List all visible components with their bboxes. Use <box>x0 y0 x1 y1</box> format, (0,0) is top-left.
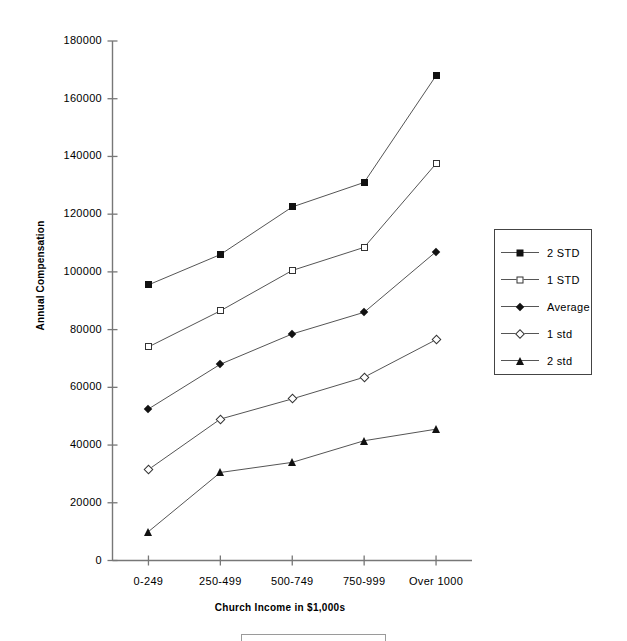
legend-item[interactable]: 1 std <box>495 320 591 347</box>
data-point-marker <box>288 458 296 466</box>
legend-marker-icon <box>517 249 524 256</box>
data-point-marker <box>433 160 440 167</box>
legend-marker-icon <box>515 329 525 339</box>
x-axis-tick-label: Over 1000 <box>381 575 491 587</box>
legend-item[interactable]: Average <box>495 293 591 320</box>
series-line <box>148 429 436 531</box>
series-line <box>148 340 436 470</box>
legend-marker-icon <box>516 302 524 310</box>
data-point-marker <box>361 244 368 251</box>
data-point-marker <box>216 468 224 476</box>
legend-marker-icon <box>517 276 524 283</box>
axis-lines <box>113 41 473 561</box>
data-point-marker <box>144 528 152 536</box>
bottom-divider-mark <box>241 634 386 641</box>
data-point-marker <box>432 425 440 433</box>
data-point-marker <box>289 203 296 210</box>
series-line <box>148 164 436 347</box>
legend-swatch <box>501 328 539 340</box>
data-point-marker <box>217 251 224 258</box>
legend-item[interactable]: 2 std <box>495 347 591 374</box>
data-point-marker <box>433 72 440 79</box>
series-line <box>148 76 436 285</box>
legend-marker-icon <box>516 357 524 365</box>
data-point-marker <box>361 179 368 186</box>
data-point-marker <box>289 267 296 274</box>
chart-legend: 2 STD1 STDAverage1 std2 std <box>494 229 592 375</box>
legend-swatch <box>501 355 539 367</box>
x-axis-title: Church Income in $1,000s <box>100 602 460 613</box>
legend-swatch <box>501 301 539 313</box>
legend-item-label: Average <box>547 301 590 313</box>
data-point-marker <box>145 343 152 350</box>
legend-item-label: 1 STD <box>547 274 580 286</box>
legend-swatch <box>501 247 539 259</box>
legend-item-label: 2 std <box>547 355 572 367</box>
legend-item[interactable]: 2 STD <box>495 239 591 266</box>
legend-item[interactable]: 1 STD <box>495 266 591 293</box>
compensation-line-chart: Annual Compensation 18000016000014000012… <box>0 0 627 641</box>
legend-item-label: 1 std <box>547 328 572 340</box>
legend-swatch <box>501 274 539 286</box>
data-point-marker <box>217 307 224 314</box>
data-point-marker <box>360 437 368 445</box>
data-point-marker <box>145 281 152 288</box>
legend-item-label: 2 STD <box>547 247 580 259</box>
